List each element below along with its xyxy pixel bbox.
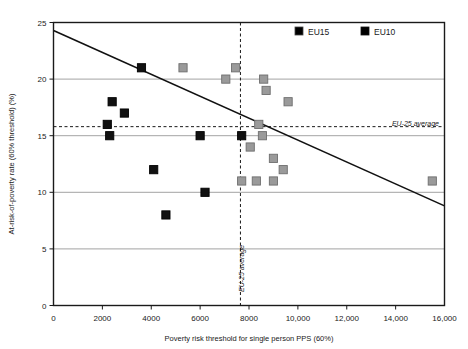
data-point-eu15 <box>284 98 292 106</box>
data-point-eu15 <box>238 177 246 185</box>
y-tick-label-0: 0 <box>42 302 47 311</box>
data-point-eu10 <box>108 98 116 106</box>
legend-swatch-eu15 <box>295 27 303 35</box>
data-point-eu15 <box>255 120 263 128</box>
eu25-average-vertical-label: EU-25 average <box>238 245 246 292</box>
y-tick-label-5: 5 <box>42 245 47 254</box>
legend-label-eu15: EU15 <box>308 27 330 37</box>
data-point-eu10 <box>103 120 111 128</box>
x-tick-label-8000: 8000 <box>240 314 258 323</box>
data-point-eu15 <box>252 177 260 185</box>
x-axis-title: Poverty risk threshold for single person… <box>165 334 334 343</box>
data-point-eu10 <box>106 132 114 140</box>
eu25-average-horizontal-label: EU-25 average <box>392 120 439 128</box>
data-point-eu10 <box>196 132 204 140</box>
data-point-eu10 <box>238 132 246 140</box>
data-point-eu15 <box>260 75 268 83</box>
data-point-eu15 <box>279 166 287 174</box>
data-point-eu15 <box>269 177 277 185</box>
data-point-eu15 <box>269 154 277 162</box>
y-tick-label-25: 25 <box>38 19 47 28</box>
data-point-eu15 <box>179 64 187 72</box>
y-tick-label-10: 10 <box>38 188 47 197</box>
data-point-eu15 <box>428 177 436 185</box>
x-tick-label-14000: 14,000 <box>383 314 408 323</box>
y-axis-title: At-risk-of-poverty rate (60% threshold) … <box>7 93 16 234</box>
scatter-plot: 0200040006000800010,00012,00014,00016,00… <box>0 0 468 349</box>
x-tick-label-16000: 16,000 <box>432 314 457 323</box>
x-tick-label-6000: 6000 <box>191 314 209 323</box>
data-point-eu10 <box>120 109 128 117</box>
chart-figure: 0200040006000800010,00012,00014,00016,00… <box>0 0 468 349</box>
data-point-eu10 <box>162 211 170 219</box>
x-tick-label-2000: 2000 <box>93 314 111 323</box>
y-tick-label-15: 15 <box>38 132 47 141</box>
x-tick-label-4000: 4000 <box>142 314 160 323</box>
data-point-eu15 <box>258 132 266 140</box>
x-tick-label-0: 0 <box>51 314 56 323</box>
data-point-eu10 <box>150 166 158 174</box>
legend-swatch-eu10 <box>361 27 369 35</box>
data-point-eu15 <box>231 64 239 72</box>
chart-background <box>0 0 468 349</box>
y-tick-label-20: 20 <box>38 75 47 84</box>
data-point-eu15 <box>222 75 230 83</box>
data-point-eu15 <box>262 86 270 94</box>
data-point-eu15 <box>246 143 254 151</box>
legend-label-eu10: EU10 <box>374 27 396 37</box>
x-tick-label-12000: 12,000 <box>335 314 360 323</box>
data-point-eu10 <box>137 64 145 72</box>
data-point-eu10 <box>201 188 209 196</box>
x-tick-label-10000: 10,000 <box>286 314 311 323</box>
